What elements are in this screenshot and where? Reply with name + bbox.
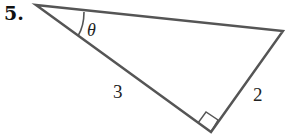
angle-arc bbox=[78, 12, 84, 36]
hypotenuse-label: 3 bbox=[113, 81, 123, 102]
angle-theta-label: θ bbox=[87, 20, 96, 40]
triangle-outline bbox=[36, 5, 283, 132]
triangle-diagram: θ 3 2 bbox=[0, 0, 285, 135]
side-label: 2 bbox=[253, 84, 263, 105]
triangle bbox=[36, 5, 283, 132]
